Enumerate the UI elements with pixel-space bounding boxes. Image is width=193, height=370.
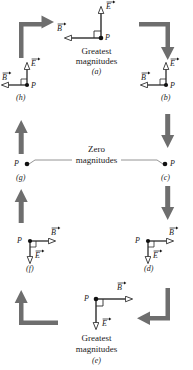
panel-e-B-symbol: B: [117, 284, 122, 292]
vector-arrow-overbar-icon: [1, 71, 13, 75]
vector-arrow-overbar-icon: [50, 226, 62, 230]
panel-d-B-symbol: B: [169, 229, 174, 237]
panel-a-B-symbol: B: [57, 25, 62, 33]
panel-c-P-symbol: P: [170, 160, 175, 168]
panel-f-label: (f): [26, 265, 34, 273]
panel-d-label: (d): [144, 265, 153, 273]
vector-arrow-overbar-icon: [101, 317, 113, 321]
panel-h-label: (h): [16, 94, 25, 102]
panel-g-label: (g): [16, 174, 25, 182]
panel-e-label: (e): [0, 357, 193, 365]
panel-b-E-symbol: E: [170, 60, 175, 68]
connector-straight-right-lower: [161, 186, 174, 220]
connector-straight-right-upper: [161, 114, 174, 148]
panel-e-caption-line1: Greatest: [0, 333, 193, 343]
zero-caption-line1: Zero: [0, 144, 193, 154]
panel-d-E-symbol: E: [153, 252, 158, 260]
connector-corner-bottom-right: [137, 288, 170, 325]
panel-a-vectors: [71, 13, 103, 40]
panel-a-caption-line2: magnitudes: [0, 56, 193, 66]
panel-b-B-symbol: B: [141, 74, 146, 82]
panel-f-B-symbol: B: [51, 229, 56, 237]
vector-arrow-overbar-icon: [152, 249, 164, 253]
vector-arrow-overbar-icon: [116, 281, 128, 285]
vector-arrow-overbar-icon: [30, 57, 42, 61]
panel-a-label: (a): [0, 68, 193, 76]
panel-h-E-symbol: E: [31, 60, 36, 68]
vector-arrow-overbar-icon: [56, 22, 68, 26]
connector-straight-left-lower: [15, 189, 28, 223]
panel-e-E-symbol: E: [102, 320, 107, 328]
vector-arrow-overbar-icon: [168, 226, 180, 230]
panel-f-E-symbol: E: [35, 252, 40, 260]
vector-arrow-overbar-icon: [34, 249, 46, 253]
panel-a-caption-line1: Greatest: [0, 46, 193, 56]
panel-e-caption-line2: magnitudes: [0, 344, 193, 354]
panel-h-B-symbol: B: [2, 74, 7, 82]
panel-f-P-symbol: P: [17, 237, 22, 245]
em-wave-field-cycle-figure: E B P Greatest magnitudes (a) E B P (h) …: [0, 0, 193, 370]
panel-b-label: (b): [161, 94, 170, 102]
connector-corner-bottom-left: [15, 290, 58, 325]
vector-arrow-overbar-icon: [169, 57, 181, 61]
panel-h-P-symbol: P: [31, 82, 36, 90]
vector-arrow-overbar-icon: [105, 0, 117, 4]
panel-e-P-symbol: P: [84, 295, 89, 303]
panel-c-label: (c): [161, 174, 170, 182]
panel-a-E-symbol: E: [106, 3, 111, 11]
panel-a-P-symbol: P: [105, 34, 110, 42]
panel-g-P-symbol: P: [14, 160, 19, 168]
vector-arrow-overbar-icon: [140, 71, 152, 75]
panel-b-P-symbol: P: [170, 82, 175, 90]
zero-caption-line2: magnitudes: [0, 155, 193, 165]
panel-d-P-symbol: P: [135, 237, 140, 245]
